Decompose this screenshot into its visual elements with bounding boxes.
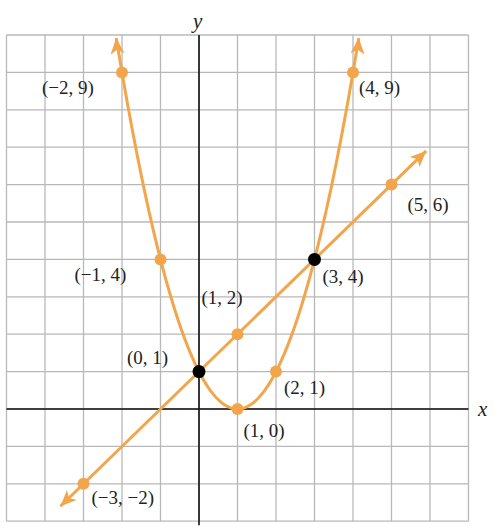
data-point bbox=[270, 366, 282, 378]
data-point bbox=[116, 66, 128, 78]
point-label: (−3, −2) bbox=[92, 487, 155, 509]
data-point bbox=[155, 253, 167, 265]
data-point bbox=[347, 66, 359, 78]
point-label: (0, 1) bbox=[127, 347, 168, 369]
point-label: (−2, 9) bbox=[42, 77, 94, 99]
point-label: (3, 4) bbox=[323, 266, 364, 288]
point-label: (1, 2) bbox=[202, 287, 243, 309]
y-axis-label: y bbox=[191, 9, 203, 33]
point-label: (2, 1) bbox=[284, 377, 325, 399]
data-point bbox=[232, 328, 244, 340]
point-labels: (−2, 9)(4, 9)(5, 6)(−1, 4)(3, 4)(1, 2)(0… bbox=[42, 77, 449, 508]
intersection-point bbox=[193, 365, 206, 378]
data-point bbox=[386, 179, 398, 191]
x-axis-label: x bbox=[477, 397, 488, 421]
line-curve bbox=[60, 151, 426, 506]
chart: (−2, 9)(4, 9)(5, 6)(−1, 4)(3, 4)(1, 2)(0… bbox=[0, 0, 494, 531]
point-label: (−1, 4) bbox=[75, 264, 127, 286]
intersection-point bbox=[308, 253, 321, 266]
point-label: (5, 6) bbox=[408, 194, 449, 216]
data-point bbox=[78, 478, 90, 490]
data-point bbox=[232, 403, 244, 415]
point-label: (4, 9) bbox=[359, 77, 400, 99]
point-label: (1, 0) bbox=[244, 420, 285, 442]
